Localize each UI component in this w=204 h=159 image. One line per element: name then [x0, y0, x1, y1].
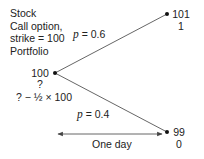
start-node-labels: 100 ? — [18, 67, 74, 89]
legend: Stock Call option, strike = 100 Portfoli… — [10, 7, 65, 57]
up-node-labels: 101 1 — [170, 8, 192, 32]
time-axis-label: One day — [92, 138, 132, 150]
up-probability-label: p = 0.6 — [73, 28, 105, 40]
legend-portfolio: Portfolio — [10, 45, 65, 58]
legend-stock: Stock — [10, 7, 65, 20]
down-probability-label: p = 0.4 — [77, 108, 109, 120]
down-option-value: 0 — [170, 138, 188, 150]
start-option-value: ? — [6, 79, 74, 89]
start-portfolio-value: ? − ½ × 100 — [16, 91, 72, 103]
up-option-value: 1 — [170, 20, 192, 32]
down-node-dot — [165, 130, 169, 134]
up-node-dot — [165, 12, 169, 16]
up-stock-price: 101 — [170, 8, 192, 20]
down-stock-price: 99 — [170, 126, 188, 138]
legend-call-option: Call option, — [10, 20, 65, 33]
down-node-labels: 99 0 — [170, 126, 188, 150]
legend-strike: strike = 100 — [10, 32, 65, 45]
up-branch-line — [55, 14, 167, 73]
